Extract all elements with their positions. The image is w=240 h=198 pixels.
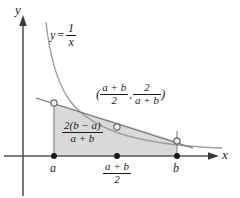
area-denominator: a + b <box>62 133 103 145</box>
x-tick-label-b: b <box>173 161 179 176</box>
point-marker-a <box>51 100 57 106</box>
coord-close-paren: ) <box>161 86 165 102</box>
tick-dot-b <box>174 153 180 159</box>
x-tick-label-midpoint: a + b 2 <box>103 161 131 185</box>
x-tick-midpoint-denominator: 2 <box>103 174 131 186</box>
coord-x-numerator: a + b <box>100 82 128 95</box>
x-tick-midpoint-fraction: a + b 2 <box>103 161 131 185</box>
curve-eq-numerator: 1 <box>66 22 76 36</box>
coord-x-denominator: 2 <box>100 95 128 107</box>
point-marker-b <box>174 138 180 144</box>
y-axis-label: y <box>15 2 21 18</box>
point-marker-midpoint <box>114 124 120 130</box>
x-axis-arrow-icon <box>208 152 219 160</box>
x-axis-label: x <box>222 147 228 163</box>
curve-equation-label: y= 1 x <box>50 22 76 48</box>
area-fraction: 2(b − a) a + b <box>62 120 103 144</box>
x-tick-label-a: a <box>50 161 56 176</box>
area-numerator: 2(b − a) <box>62 120 103 133</box>
midpoint-coordinate-label: ( a + b 2 , 2 a + b ) <box>96 82 165 106</box>
area-value-label: 2(b − a) a + b <box>62 120 103 144</box>
curve-eq-fraction: 1 x <box>66 22 76 48</box>
x-tick-midpoint-numerator: a + b <box>103 161 131 174</box>
coord-x-fraction: a + b 2 <box>100 82 128 106</box>
coord-y-denominator: a + b <box>133 95 161 107</box>
coord-y-fraction: 2 a + b <box>133 82 161 106</box>
figure-canvas: y x y= 1 x ( a + b 2 , 2 a + b ) 2(b − a… <box>0 0 240 198</box>
curve-eq-equals: = <box>55 28 66 43</box>
tick-dot-a <box>51 153 57 159</box>
tick-dot-midpoint <box>114 153 120 159</box>
coord-y-numerator: 2 <box>133 82 161 95</box>
curve-eq-denominator: x <box>66 36 76 49</box>
